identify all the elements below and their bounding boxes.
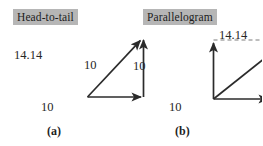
figure-panel-parallelogram: Parallelogram 14.14 10 10 (b) — [131, 0, 262, 146]
vertical-vector-label: 10 — [133, 60, 146, 73]
horizontal-vector-label: 10 — [169, 101, 182, 114]
parallelogram-vector-drawing — [131, 0, 262, 146]
panel-caption-b: (b) — [175, 124, 190, 139]
figure-panel-head-to-tail: Head-to-tail 14.14 10 10 (a) — [0, 0, 131, 146]
resultant-vector-arrow — [214, 43, 263, 99]
horizontal-vector-label: 10 — [41, 101, 54, 114]
panel-caption-a: (a) — [47, 124, 61, 139]
vertical-vector-label: 10 — [84, 59, 97, 72]
resultant-vector-label: 14.14 — [219, 29, 247, 42]
resultant-vector-label: 14.14 — [14, 49, 42, 62]
